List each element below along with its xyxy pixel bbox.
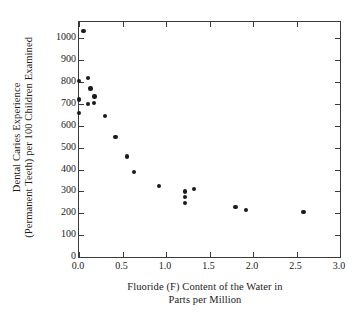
x-tick-top <box>297 22 298 27</box>
y-tick-left <box>79 104 84 105</box>
x-axis-title-line-1: Fluoride (F) Content of the Water in <box>60 280 350 293</box>
data-point <box>103 114 107 118</box>
x-tick-label: 1.0 <box>145 260 185 272</box>
x-tick-label: 0.0 <box>58 260 98 272</box>
y-tick-label: 300 <box>44 185 76 195</box>
y-tick-right <box>335 257 340 258</box>
data-point <box>86 102 90 106</box>
y-tick-label: 100 <box>44 229 76 239</box>
y-axis-title: Dental Caries Experience (Permanent Teet… <box>0 0 46 275</box>
data-point <box>183 195 187 199</box>
y-tick-left <box>79 191 84 192</box>
y-tick-right <box>335 148 340 149</box>
y-axis-title-line-2: (Permanent Teeth) per 100 Children Exami… <box>23 37 35 238</box>
data-point <box>77 97 81 101</box>
x-tick-top <box>253 22 254 27</box>
x-tick-top <box>79 22 80 27</box>
plot-area <box>78 21 341 258</box>
data-point <box>125 154 129 158</box>
y-tick-label: 500 <box>44 142 76 152</box>
x-tick-label: 1.5 <box>189 260 229 272</box>
y-tick-label: 900 <box>44 54 76 64</box>
data-point <box>244 208 248 212</box>
y-tick-left <box>79 170 84 171</box>
data-point <box>92 101 96 105</box>
plot-inner <box>79 22 340 257</box>
x-tick-bottom <box>166 252 167 257</box>
scatter-chart-figure: Dental Caries Experience (Permanent Teet… <box>0 0 361 327</box>
x-tick-bottom <box>123 252 124 257</box>
y-tick-left <box>79 60 84 61</box>
data-point <box>81 29 85 33</box>
x-tick-bottom <box>210 252 211 257</box>
y-tick-right <box>335 235 340 236</box>
data-point <box>77 111 81 115</box>
y-tick-right <box>335 38 340 39</box>
y-tick-right <box>335 60 340 61</box>
y-tick-left <box>79 257 84 258</box>
y-tick-right <box>335 170 340 171</box>
y-axis-title-line-1: Dental Caries Experience <box>11 37 23 238</box>
x-tick-bottom <box>340 252 341 257</box>
data-point <box>88 86 92 90</box>
x-axis-title: Fluoride (F) Content of the Water in Par… <box>60 280 350 306</box>
y-tick-label: 700 <box>44 98 76 108</box>
data-point <box>113 135 117 139</box>
x-axis-tick-labels: 0.00.51.01.52.02.53.0 <box>78 260 339 274</box>
x-tick-bottom <box>253 252 254 257</box>
data-point <box>183 189 187 193</box>
x-axis-title-line-2: Parts per Million <box>60 293 350 306</box>
data-point <box>233 205 237 209</box>
data-point <box>86 76 90 80</box>
y-tick-right <box>335 126 340 127</box>
x-tick-top <box>123 22 124 27</box>
data-point <box>301 210 305 214</box>
x-tick-label: 3.0 <box>319 260 359 272</box>
data-point <box>183 201 187 205</box>
x-tick-top <box>166 22 167 27</box>
data-point <box>157 184 161 188</box>
y-tick-left <box>79 235 84 236</box>
y-tick-label: 800 <box>44 76 76 86</box>
x-tick-label: 0.5 <box>102 260 142 272</box>
y-tick-right <box>335 191 340 192</box>
y-tick-label: 200 <box>44 207 76 217</box>
data-point <box>132 170 136 174</box>
y-tick-label: 400 <box>44 164 76 174</box>
y-tick-label: 1000 <box>44 32 76 42</box>
y-tick-left <box>79 126 84 127</box>
y-tick-left <box>79 38 84 39</box>
x-tick-top <box>340 22 341 27</box>
data-point <box>92 94 96 98</box>
y-tick-right <box>335 213 340 214</box>
x-tick-top <box>210 22 211 27</box>
data-point <box>192 187 196 191</box>
y-tick-left <box>79 148 84 149</box>
x-tick-label: 2.0 <box>232 260 272 272</box>
y-tick-label: 600 <box>44 120 76 130</box>
y-tick-right <box>335 82 340 83</box>
y-axis-tick-labels: 01002003004005006007008009001000 <box>44 20 76 270</box>
y-tick-right <box>335 104 340 105</box>
y-tick-left <box>79 213 84 214</box>
x-tick-label: 2.5 <box>276 260 316 272</box>
x-tick-bottom <box>297 252 298 257</box>
